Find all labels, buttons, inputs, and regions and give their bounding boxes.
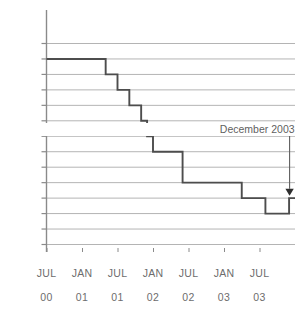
x-axis-month-label: JAN (72, 268, 93, 279)
x-axis-month-label: JUL (108, 268, 128, 279)
x-axis-tick-jul-02: JUL02 (179, 268, 199, 302)
x-axis-tick-jul-01: JUL01 (108, 268, 128, 302)
x-axis-tick-jul-00: JUL00 (37, 268, 57, 302)
x-axis-year-label: 03 (250, 292, 270, 303)
x-axis-tick-jan-01: JAN01 (72, 268, 93, 302)
x-axis-tick-labels: JUL00JAN01JUL01JAN02JUL02JAN03JUL03 (0, 0, 308, 312)
x-axis-tick-jan-02: JAN02 (143, 268, 164, 302)
x-axis-month-label: JUL (250, 268, 270, 279)
x-axis-year-label: 02 (179, 292, 199, 303)
x-axis-tick-jul-03: JUL03 (250, 268, 270, 302)
x-axis-month-label: JUL (37, 268, 57, 279)
december-2003-annotation-label: December 2003 (0, 123, 297, 137)
x-axis-month-label: JUL (179, 268, 199, 279)
x-axis-year-label: 02 (143, 292, 164, 303)
x-axis-year-label: 01 (72, 292, 93, 303)
x-axis-month-label: JAN (214, 268, 235, 279)
x-axis-month-label: JAN (143, 268, 164, 279)
step-chart: 6.2565.755.55.2554.754.54.2543.753.53 JU… (0, 0, 308, 312)
x-axis-year-label: 00 (37, 292, 57, 303)
x-axis-tick-jan-03: JAN03 (214, 268, 235, 302)
x-axis-year-label: 01 (108, 292, 128, 303)
x-axis-year-label: 03 (214, 292, 235, 303)
